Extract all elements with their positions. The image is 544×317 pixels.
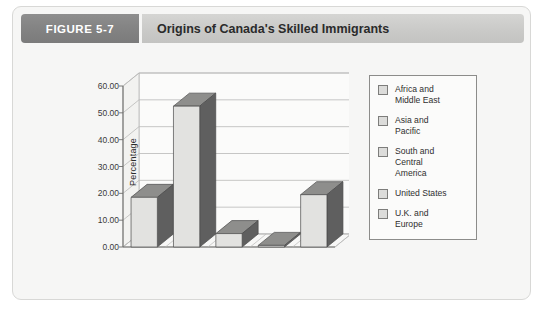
chart-area: Percentage 0.0010.0020.0030.0040.0050.00… (13, 47, 531, 299)
legend-item: South and Central America (378, 146, 469, 179)
legend-item-label: South and Central America (395, 146, 434, 179)
y-axis-tick-label: 30.00 (51, 162, 119, 172)
bar-2 (173, 93, 215, 247)
chart-legend: Africa and Middle EastAsia and PacificSo… (369, 75, 477, 240)
legend-item-label: United States (395, 188, 447, 199)
legend-swatch-icon (378, 189, 388, 199)
legend-swatch-icon (378, 85, 388, 95)
y-axis-tick-label: 20.00 (51, 188, 119, 198)
plot-area: Percentage 0.0010.0020.0030.0040.0050.00… (97, 61, 349, 273)
y-axis-title: Percentage (128, 120, 138, 204)
y-axis-tick-label: 50.00 (51, 108, 119, 118)
y-axis-tick-label: 40.00 (51, 135, 119, 145)
figure-card: FIGURE 5-7 Origins of Canada's Skilled I… (12, 6, 531, 300)
legend-swatch-icon (378, 209, 388, 219)
figure-header: FIGURE 5-7 Origins of Canada's Skilled I… (21, 14, 524, 43)
legend-item: United States (378, 188, 469, 199)
legend-item-label: U.K. and Europe (395, 208, 428, 230)
bar-5 (301, 182, 343, 247)
legend-swatch-icon (378, 147, 388, 157)
legend-item-label: Asia and Pacific (395, 115, 428, 137)
y-axis-tick-label: 0.00 (51, 242, 119, 252)
figure-number-badge: FIGURE 5-7 (21, 14, 139, 43)
y-axis-tick-label: 10.00 (51, 215, 119, 225)
figure-title: Origins of Canada's Skilled Immigrants (142, 14, 524, 43)
y-axis-tick-label: 60.00 (51, 81, 119, 91)
legend-swatch-icon (378, 116, 388, 126)
legend-item: Africa and Middle East (378, 84, 469, 106)
legend-item: U.K. and Europe (378, 208, 469, 230)
legend-item: Asia and Pacific (378, 115, 469, 137)
legend-item-label: Africa and Middle East (395, 84, 440, 106)
